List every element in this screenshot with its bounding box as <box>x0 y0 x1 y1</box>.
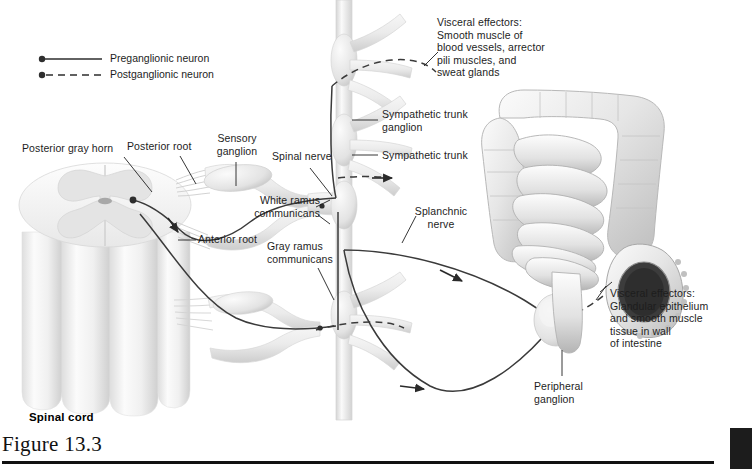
label-visceral-effectors-intestine: Visceral effectors: Glandular epithelium… <box>610 287 708 350</box>
gray-ramus-marker <box>317 325 322 330</box>
label-visceral-effectors-skin: Visceral effectors: Smooth muscle of blo… <box>437 16 545 79</box>
neuron-dashed-icon <box>39 72 45 78</box>
label-sensory-ganglion: Sensory ganglion <box>204 132 270 157</box>
label-posterior-gray-horn: Posterior gray horn <box>22 142 113 155</box>
legend-item-preganglionic: Preganglionic neuron <box>110 52 209 65</box>
label-spinal-nerve: Spinal nerve <box>272 150 332 163</box>
label-splanchnic-nerve: Splanchnic nerve <box>405 205 477 230</box>
label-posterior-root: Posterior root <box>127 140 191 153</box>
figure-caption: Figure 13.3 <box>2 432 102 457</box>
figure-divider-rule <box>2 461 714 464</box>
spinal-cord-graphic <box>19 163 213 416</box>
page-corner-block <box>730 428 752 469</box>
legend-item-postganglionic: Postganglionic neuron <box>110 68 214 81</box>
label-spinal-cord: Spinal cord <box>29 411 94 423</box>
neuron-solid-icon <box>39 56 45 62</box>
figure-page: Preganglionic neuron Postganglionic neur… <box>0 0 752 469</box>
sympathetic-trunk-graphic <box>331 0 412 420</box>
label-anterior-root: Anterior root <box>198 233 257 246</box>
label-sympathetic-trunk: Sympathetic trunk <box>382 149 468 162</box>
label-white-ramus-communicans: White ramus communicans <box>236 194 320 219</box>
label-sympathetic-trunk-ganglion: Sympathetic trunk ganglion <box>382 108 468 133</box>
label-gray-ramus-communicans: Gray ramus communicans <box>267 240 333 265</box>
label-peripheral-ganglion: Peripheral ganglion <box>534 380 583 405</box>
legend-symbols <box>39 56 102 78</box>
